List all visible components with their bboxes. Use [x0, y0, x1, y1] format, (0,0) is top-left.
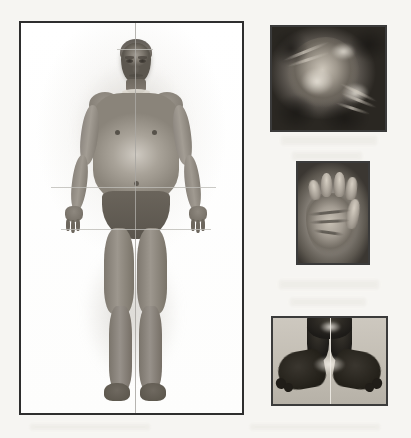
hand-digit [334, 172, 345, 197]
reference-line-horizontal-waist [51, 187, 216, 188]
subject-thigh-right [137, 228, 167, 314]
reference-line-vertical-midline [135, 23, 136, 413]
photo-head-close-up [272, 27, 385, 130]
subject-nipple-left [115, 130, 120, 135]
page-bleedthrough-ghost [290, 298, 366, 306]
foot-toe-right [364, 382, 375, 393]
clinical-photo-plate [0, 0, 411, 438]
head-shadow [277, 95, 315, 130]
page-bleedthrough-ghost [250, 424, 380, 430]
reference-line-horizontal-hand [61, 229, 211, 230]
hand-digit [321, 173, 332, 197]
panel-full-body-frontal [19, 21, 244, 415]
subject-shin-right [139, 306, 162, 390]
panel-both-feet [271, 316, 388, 406]
hand-digit [345, 177, 358, 201]
head-shadow [351, 29, 385, 60]
photo-full-body [21, 23, 242, 413]
page-bleedthrough-ghost [279, 280, 379, 289]
photo-both-feet [273, 318, 386, 404]
photo-hand-palmar [298, 163, 368, 263]
page-bleedthrough-ghost [281, 136, 377, 145]
page-bleedthrough-ghost [30, 424, 150, 430]
subject-eye-left [126, 59, 133, 63]
panel-head-close-up [270, 25, 387, 132]
subject-fingers-left [71, 220, 75, 233]
subject-nipple-right [152, 130, 157, 135]
subject-eye-right [139, 59, 146, 63]
page-bleedthrough-ghost [292, 152, 362, 160]
subject-foot-left [104, 383, 130, 401]
subject-shin-left [109, 306, 132, 390]
reference-line-horizontal-head [117, 49, 153, 50]
hand-digit [308, 179, 322, 201]
panel-hand-palmar-view [296, 161, 370, 265]
subject-thigh-left [104, 228, 134, 314]
subject-mouth [129, 74, 143, 77]
subject-fingers-right [196, 220, 200, 233]
head-highlight [301, 68, 333, 95]
subject-nose [132, 64, 140, 73]
reference-line-vertical-midline [330, 318, 331, 404]
subject-foot-right [140, 383, 166, 401]
